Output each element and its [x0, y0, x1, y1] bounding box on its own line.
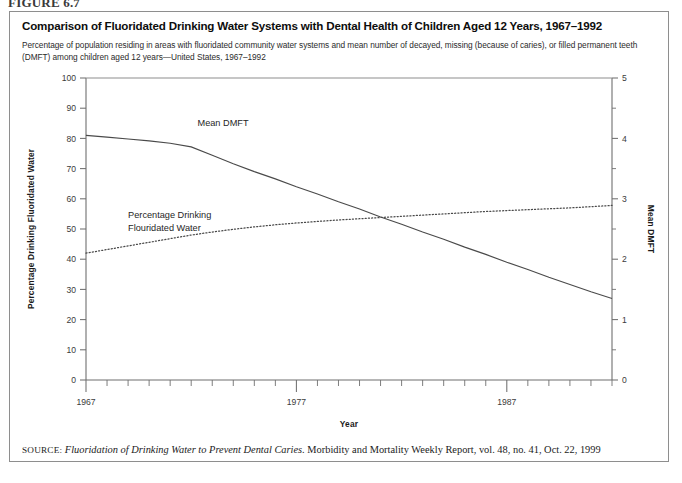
y-tick-label-left: 30: [66, 285, 76, 295]
y-tick-label-left: 60: [66, 194, 76, 204]
source-rest: Morbidity and Mortality Weekly Report, v…: [305, 444, 601, 455]
y-tick-label-left: 40: [66, 254, 76, 264]
y-tick-label-right: 5: [622, 73, 627, 83]
x-axis-title: Year: [340, 419, 359, 429]
y-tick-label-left: 90: [66, 103, 76, 113]
y-tick-label-left: 10: [66, 345, 76, 355]
x-tick-label: 1977: [287, 397, 306, 407]
y-tick-label-right: 1: [622, 315, 627, 325]
y-tick-label-left: 20: [66, 315, 76, 325]
y-tick-label-left: 70: [66, 164, 76, 174]
y-tick-label-left: 80: [66, 134, 76, 144]
chart-svg: 0102030405060708090100012345196719771987…: [0, 0, 682, 483]
figure-root: FIGURE 6.7 Comparison of Fluoridated Dri…: [0, 0, 682, 483]
source-title: Fluoridation of Drinking Water to Preven…: [65, 444, 305, 455]
y-tick-label-left: 100: [62, 73, 77, 83]
y-tick-label-left: 0: [71, 375, 76, 385]
series-annotation: Percentage Drinking: [128, 210, 211, 220]
chart-axes: 0102030405060708090100012345196719771987: [62, 73, 627, 407]
y-axis-title-left: Percentage Drinking Fluoridated Water: [26, 148, 36, 309]
y-tick-label-right: 3: [622, 194, 627, 204]
y-tick-label-right: 4: [622, 134, 627, 144]
series-annotation: Flouridated Water: [128, 223, 201, 233]
source-key: SOURCE:: [22, 445, 62, 455]
x-tick-label: 1967: [76, 397, 95, 407]
y-tick-label-left: 50: [66, 224, 76, 234]
y-axis-title-right: Mean DMFT: [646, 205, 656, 254]
series-annotation: Mean DMFT: [198, 118, 249, 128]
source-note: SOURCE: Fluoridation of Drinking Water t…: [22, 443, 647, 457]
chart-plot-area: 0102030405060708090100012345196719771987…: [0, 0, 682, 483]
y-tick-label-right: 0: [622, 375, 627, 385]
chart-labels: Mean DMFTPercentage DrinkingFlouridated …: [26, 118, 656, 429]
y-tick-label-right: 2: [622, 254, 627, 264]
x-tick-label: 1987: [497, 397, 516, 407]
